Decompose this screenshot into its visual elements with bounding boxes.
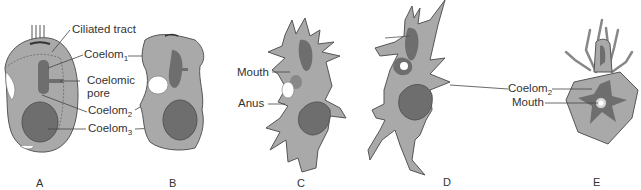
label-mouth-e: Mouth [512,97,544,109]
larva-e-illustration [566,20,638,144]
label-pore: pore [87,88,110,100]
label-ciliated-tract: Ciliated tract [72,24,136,36]
panel-label-d: D [443,176,451,188]
panel-label-a: A [36,177,43,189]
label-coelom-2-e: Coelom2 [508,83,552,97]
label-coelom-1: Coelom1 [84,49,128,63]
label-coelom-3: Coelom3 [88,123,132,137]
label-anus: Anus [238,98,264,110]
label-coelom-2: Coelom2 [88,105,132,119]
panel-label-c: C [297,177,305,189]
panel-label-e: E [593,176,600,188]
panel-label-b: B [169,177,176,189]
larva-d-illustration [368,0,450,175]
label-mouth-c: Mouth [237,67,269,79]
larva-b-illustration [140,35,204,151]
larva-c-illustration [266,18,346,172]
larva-a-illustration [5,25,78,152]
label-coelomic: Coelomic [87,75,135,87]
